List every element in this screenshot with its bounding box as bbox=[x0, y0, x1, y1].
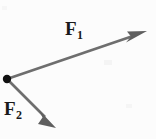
origin-dot bbox=[3, 75, 11, 83]
vector-label-f1-symbol: F bbox=[65, 18, 77, 39]
force-vector-figure: F1 F2 bbox=[0, 0, 156, 139]
vector-label-f1-subscript: 1 bbox=[77, 28, 83, 42]
vector-label-f1: F1 bbox=[65, 19, 83, 41]
vector-f1-shaft bbox=[7, 36, 133, 79]
vector-f2-arrowhead bbox=[38, 110, 56, 128]
vector-label-f2: F2 bbox=[4, 99, 22, 121]
vector-label-f2-subscript: 2 bbox=[16, 108, 22, 122]
vector-label-f2-symbol: F bbox=[4, 98, 16, 119]
